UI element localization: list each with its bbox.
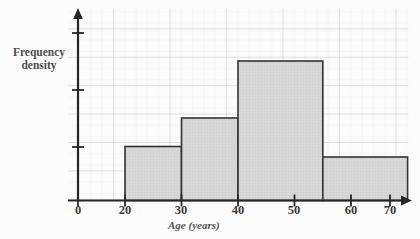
x-tick-label-50: 50	[279, 203, 309, 218]
x-axis-title: Age (years)	[168, 219, 220, 232]
histogram-bar	[125, 147, 182, 201]
histogram-chart: Frequencydensity Age (years) 0 20 30 40 …	[0, 0, 420, 239]
x-tick-label-20: 20	[110, 203, 140, 218]
x-tick-label-60: 60	[336, 203, 366, 218]
x-tick-label-40: 40	[223, 203, 253, 218]
y-axis-title-line2: density	[21, 59, 56, 71]
histogram-bar	[182, 118, 239, 201]
x-tick-label-30: 30	[166, 203, 196, 218]
histogram-bar	[323, 157, 408, 201]
x-tick-label-0: 0	[63, 203, 93, 218]
y-axis-title: Frequencydensity	[6, 46, 72, 72]
y-axis-title-line1: Frequency	[13, 46, 65, 58]
histogram-bar	[238, 61, 323, 201]
x-tick-label-70: 70	[375, 203, 405, 218]
